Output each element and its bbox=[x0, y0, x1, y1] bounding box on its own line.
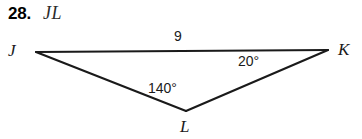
angle-measure-label-L: 140° bbox=[148, 81, 177, 95]
segment-JK bbox=[36, 50, 328, 52]
vertex-label-J: J bbox=[8, 42, 16, 59]
angle-measure-label-K: 20° bbox=[238, 54, 259, 68]
vertex-label-K: K bbox=[338, 41, 349, 58]
side-length-label-JK: 9 bbox=[174, 29, 182, 43]
vertex-label-L: L bbox=[180, 118, 189, 135]
diagram-page: 28. JL J K L 9 20° 140° bbox=[0, 0, 362, 139]
